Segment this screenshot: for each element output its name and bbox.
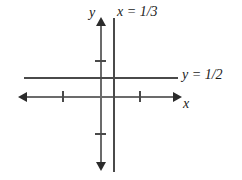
x-axis-left-arrow-icon xyxy=(18,92,27,102)
vertical-line-label: x = 1/3 xyxy=(117,5,158,19)
horizontal-line-y-equals-one-half xyxy=(24,77,178,79)
x-axis-line xyxy=(26,96,178,98)
y-axis-down-arrow-icon xyxy=(96,162,106,171)
y-axis-up-arrow-icon xyxy=(96,17,106,26)
x-axis-tick-positive xyxy=(139,91,141,102)
x-axis-right-arrow-icon xyxy=(173,92,182,102)
y-axis-tick-negative xyxy=(95,133,106,135)
y-axis-line xyxy=(100,24,102,166)
y-axis-tick-positive xyxy=(95,60,106,62)
vertical-line-x-equals-one-third xyxy=(113,18,115,172)
y-axis-label: y xyxy=(89,6,95,20)
coordinate-plane-figure: y x x = 1/3 y = 1/2 xyxy=(0,0,242,180)
x-axis-tick-negative xyxy=(62,91,64,102)
x-axis-label: x xyxy=(183,97,189,111)
horizontal-line-label: y = 1/2 xyxy=(182,68,223,82)
